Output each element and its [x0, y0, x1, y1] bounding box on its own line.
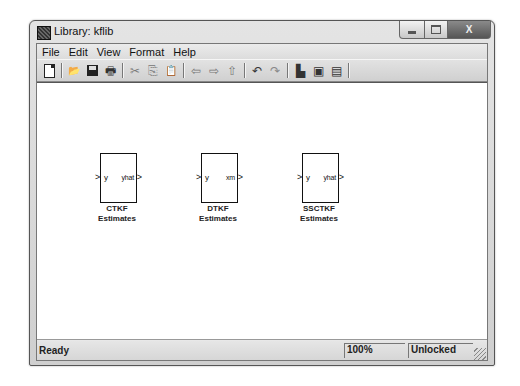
library-window: Library: kflib X File Edit View Format H… [29, 20, 495, 366]
library-browser-icon: ▙ [296, 65, 305, 77]
input-port-arrow-icon: > [196, 173, 201, 182]
resize-grip-icon[interactable] [474, 348, 486, 360]
print-icon: 🖶 [105, 65, 116, 77]
copy-button[interactable]: ⎘ [146, 64, 160, 78]
block-ssctkf[interactable]: > y yhat > [302, 153, 339, 203]
block-dtkf[interactable]: > y xm > [201, 153, 238, 203]
block-name: SSCTKF [279, 204, 359, 214]
model-browser-button[interactable]: ▤ [329, 64, 343, 78]
menu-edit[interactable]: Edit [67, 46, 94, 58]
save-button[interactable] [85, 64, 99, 78]
output-port-label: yhat [324, 173, 336, 182]
block-ctkf[interactable]: > y yhat > [100, 153, 137, 203]
copy-icon: ⎘ [148, 65, 158, 77]
block-subtitle: Estimates [279, 214, 359, 224]
input-port-label: y [306, 173, 310, 182]
toolbar-separator [122, 63, 123, 78]
block-name: DTKF [178, 204, 258, 214]
model-explorer-button[interactable]: ▣ [311, 64, 325, 78]
forward-icon: ⇨ [209, 65, 219, 77]
block-caption-ssctkf[interactable]: SSCTKF Estimates [279, 204, 359, 224]
input-port-label: y [104, 173, 108, 182]
block-name: CTKF [77, 204, 157, 214]
output-port-label: xm [226, 173, 235, 182]
close-button[interactable]: X [448, 21, 491, 39]
menu-help[interactable]: Help [171, 46, 202, 58]
back-button[interactable]: ⇦ [189, 64, 203, 78]
redo-icon: ↷ [270, 65, 280, 77]
toolbar-separator [183, 63, 184, 78]
menu-file[interactable]: File [40, 46, 66, 58]
output-port-arrow-icon: > [339, 173, 344, 182]
input-port-arrow-icon: > [95, 173, 100, 182]
window-controls: X [399, 21, 491, 39]
menu-bar: File Edit View Format Help [37, 44, 487, 59]
menu-format[interactable]: Format [127, 46, 170, 58]
minimize-button[interactable] [399, 21, 425, 39]
close-icon: X [466, 24, 473, 35]
status-message: Ready [37, 345, 344, 356]
library-browser-button[interactable]: ▙ [293, 64, 307, 78]
title-bar[interactable]: Library: kflib X [30, 21, 494, 43]
toolbar-separator [287, 63, 288, 78]
up-button[interactable]: ⇧ [225, 64, 239, 78]
block-subtitle: Estimates [77, 214, 157, 224]
paste-icon: 📋 [165, 66, 177, 76]
menu-view[interactable]: View [95, 46, 127, 58]
toolbar-separator [348, 63, 349, 78]
zoom-level: 100% [344, 343, 405, 358]
input-port-label: y [205, 173, 209, 182]
maximize-icon [431, 25, 441, 34]
print-button[interactable]: 🖶 [103, 64, 117, 78]
toolbar-separator [61, 63, 62, 78]
open-button[interactable]: 📂 [67, 64, 81, 78]
output-port-label: yhat [122, 173, 134, 182]
maximize-button[interactable] [425, 21, 448, 39]
window-title: Library: kflib [54, 25, 113, 37]
save-icon [87, 65, 98, 76]
model-browser-icon: ▤ [331, 65, 342, 77]
redo-button[interactable]: ↷ [268, 64, 282, 78]
new-icon [44, 64, 55, 78]
block-caption-ctkf[interactable]: CTKF Estimates [77, 204, 157, 224]
simulink-app-icon [37, 26, 51, 40]
block-caption-dtkf[interactable]: DTKF Estimates [178, 204, 258, 224]
status-bar: Ready 100% Unlocked [37, 341, 487, 360]
undo-button[interactable]: ↶ [250, 64, 264, 78]
back-icon: ⇦ [191, 65, 201, 77]
toolbar-separator [244, 63, 245, 78]
output-port-arrow-icon: > [238, 173, 243, 182]
minimize-icon [408, 31, 416, 34]
up-icon: ⇧ [227, 65, 237, 77]
undo-icon: ↶ [252, 65, 262, 77]
cut-icon: ✂ [130, 65, 140, 77]
open-icon: 📂 [68, 66, 80, 76]
cut-button[interactable]: ✂ [128, 64, 142, 78]
forward-button[interactable]: ⇨ [207, 64, 221, 78]
block-subtitle: Estimates [178, 214, 258, 224]
toolbar: 📂 🖶 ✂ ⎘ 📋 ⇦ ⇨ ⇧ ↶ ↷ ▙ ▣ ▤ [37, 59, 487, 82]
model-explorer-icon: ▣ [313, 65, 324, 77]
output-port-arrow-icon: > [137, 173, 142, 182]
window-client-area: File Edit View Format Help 📂 🖶 ✂ ⎘ 📋 ⇦ ⇨… [36, 43, 488, 361]
input-port-arrow-icon: > [297, 173, 302, 182]
new-model-button[interactable] [42, 64, 56, 78]
lock-status[interactable]: Unlocked [408, 343, 473, 358]
paste-button[interactable]: 📋 [164, 64, 178, 78]
library-canvas[interactable]: > y yhat > CTKF Estimates > y xm > DTKF … [37, 82, 487, 340]
